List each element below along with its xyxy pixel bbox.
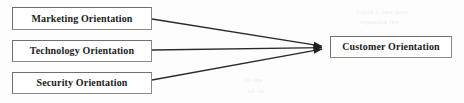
node-customer-orientation: Customer Orientation [330,36,452,58]
research-model-diagram: Table 1 and note equation list to the of… [0,0,464,103]
node-technology-orientation: Technology Orientation [12,40,152,62]
edge-security-to-customer [152,49,322,80]
node-security-orientation-label: Security Orientation [36,78,127,88]
node-marketing-orientation-label: Marketing Orientation [31,14,132,24]
edge-marketing-to-customer [152,19,322,46]
edge-technology-to-customer [152,48,322,50]
node-marketing-orientation: Marketing Orientation [12,7,152,30]
node-security-orientation: Security Orientation [12,72,152,94]
node-technology-orientation-label: Technology Orientation [30,46,134,56]
node-customer-orientation-label: Customer Orientation [342,42,440,52]
